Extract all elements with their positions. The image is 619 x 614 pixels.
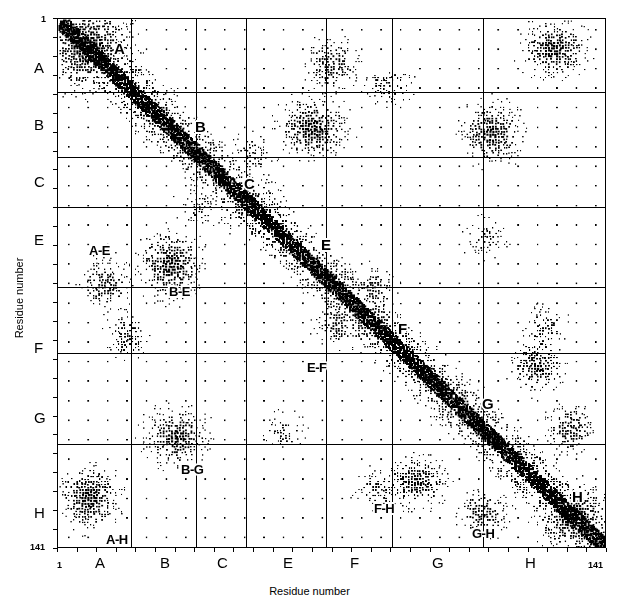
helix-label-b: B — [195, 119, 206, 134]
x-tick-15 — [351, 548, 352, 552]
x-tick-18 — [410, 548, 411, 552]
y-axis-label-c: C — [34, 173, 45, 190]
grid-line-horizontal-1 — [58, 157, 605, 158]
x-tick-5 — [155, 548, 156, 552]
x-tick-22 — [488, 548, 489, 552]
contact-map-canvas — [58, 19, 605, 547]
grid-line-horizontal-3 — [58, 287, 605, 288]
x-tick-20 — [449, 548, 450, 552]
y-tick-0 — [53, 18, 57, 19]
x-tick-19 — [430, 548, 431, 552]
y-tick-17 — [53, 340, 57, 341]
y-axis-label-b: B — [34, 116, 44, 133]
y-tick-23 — [53, 453, 57, 454]
y-tick-11 — [53, 226, 57, 227]
y-tick-1 — [53, 37, 57, 38]
contact-pair-label-gtoh: G-H — [472, 527, 494, 540]
x-tick-25 — [547, 548, 548, 552]
contact-pair-label-ftoh: F-H — [374, 502, 394, 515]
contact-pair-label-btoe: B-E — [169, 285, 190, 298]
plot-area: ABCEFGHA-EB-EE-FB-GA-HF-HG-H — [57, 18, 606, 548]
y-tick-6 — [53, 132, 57, 133]
x-axis-start-label: 1 — [57, 560, 62, 570]
y-tick-9 — [53, 188, 57, 189]
y-axis-label-f: F — [34, 339, 43, 356]
x-axis-label-c: C — [217, 554, 228, 571]
grid-line-vertical-0 — [131, 19, 132, 547]
x-axis-end-label: 141 — [588, 560, 603, 570]
helix-label-f: F — [398, 321, 407, 336]
x-axis-label-h: H — [525, 554, 536, 571]
x-tick-24 — [528, 548, 529, 552]
y-axis-end-label: 141 — [30, 542, 45, 552]
y-tick-28 — [53, 548, 57, 549]
x-axis-label-e: E — [283, 554, 293, 571]
x-tick-6 — [175, 548, 176, 552]
y-axis-title: Residue number — [13, 253, 25, 343]
contact-pair-label-atoh: A-H — [106, 533, 128, 546]
x-axis-label-a: A — [95, 554, 105, 571]
x-tick-0 — [57, 548, 58, 552]
grid-line-vertical-5 — [483, 19, 484, 547]
helix-label-h: H — [572, 489, 583, 504]
y-tick-12 — [53, 245, 57, 246]
x-tick-12 — [292, 548, 293, 552]
y-tick-13 — [53, 264, 57, 265]
y-axis-label-h: H — [34, 504, 45, 521]
y-axis-start-label: 1 — [41, 14, 46, 24]
y-tick-15 — [53, 302, 57, 303]
x-tick-4 — [135, 548, 136, 552]
y-tick-21 — [53, 416, 57, 417]
helix-label-e: E — [321, 237, 331, 252]
y-tick-5 — [53, 113, 57, 114]
x-axis-label-f: F — [350, 554, 359, 571]
y-tick-20 — [53, 397, 57, 398]
x-tick-3 — [116, 548, 117, 552]
grid-line-vertical-2 — [246, 19, 247, 547]
y-tick-22 — [53, 434, 57, 435]
x-tick-16 — [371, 548, 372, 552]
x-tick-27 — [586, 548, 587, 552]
contact-pair-label-etof: E-F — [307, 361, 326, 374]
x-tick-23 — [508, 548, 509, 552]
y-tick-14 — [53, 283, 57, 284]
contact-dot-layer — [58, 19, 605, 547]
y-tick-25 — [53, 491, 57, 492]
grid-line-vertical-4 — [392, 19, 393, 547]
grid-line-horizontal-2 — [58, 207, 605, 208]
x-tick-28 — [606, 548, 607, 552]
x-axis-label-g: G — [432, 554, 444, 571]
x-tick-21 — [469, 548, 470, 552]
contact-pair-label-atoe: A-E — [89, 244, 110, 257]
x-tick-10 — [253, 548, 254, 552]
x-tick-9 — [233, 548, 234, 552]
y-axis-label-a: A — [34, 59, 44, 76]
y-tick-18 — [53, 359, 57, 360]
y-tick-27 — [53, 529, 57, 530]
helix-label-g: G — [482, 396, 494, 411]
x-tick-2 — [96, 548, 97, 552]
x-tick-1 — [77, 548, 78, 552]
y-tick-4 — [53, 94, 57, 95]
grid-line-horizontal-4 — [58, 353, 605, 354]
y-tick-24 — [53, 472, 57, 473]
x-axis-label-b: B — [160, 554, 170, 571]
x-axis-title: Residue number — [0, 585, 619, 597]
y-tick-2 — [53, 56, 57, 57]
grid-line-horizontal-5 — [58, 444, 605, 445]
y-tick-8 — [53, 169, 57, 170]
x-tick-8 — [214, 548, 215, 552]
x-tick-13 — [312, 548, 313, 552]
x-tick-26 — [567, 548, 568, 552]
y-tick-7 — [53, 151, 57, 152]
x-tick-17 — [390, 548, 391, 552]
contact-map-figure: ABCEFGHA-EB-EE-FB-GA-HF-HG-H ABCEFGH 1 1… — [0, 0, 619, 614]
y-tick-26 — [53, 510, 57, 511]
helix-label-c: C — [244, 176, 255, 191]
contact-pair-label-btog: B-G — [181, 463, 203, 476]
x-tick-7 — [194, 548, 195, 552]
y-tick-19 — [53, 378, 57, 379]
grid-line-horizontal-0 — [58, 92, 605, 93]
grid-line-vertical-3 — [326, 19, 327, 547]
y-axis-label-g: G — [34, 409, 46, 426]
